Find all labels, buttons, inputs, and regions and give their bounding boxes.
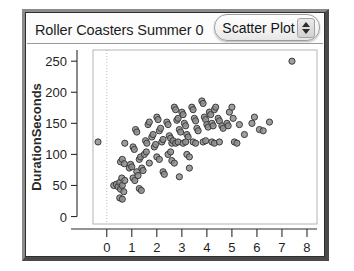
data-point[interactable]: [160, 136, 166, 142]
data-point[interactable]: [167, 149, 173, 155]
svg-text:100: 100: [45, 147, 67, 162]
data-point[interactable]: [171, 160, 177, 166]
data-point[interactable]: [143, 149, 149, 155]
triangle-up-icon[interactable]: [302, 22, 310, 27]
data-point[interactable]: [135, 172, 141, 178]
plot-type-dropdown[interactable]: Scatter Plot: [214, 14, 320, 41]
data-point[interactable]: [121, 189, 127, 195]
data-point[interactable]: [251, 114, 257, 120]
plot-type-stepper[interactable]: [297, 18, 315, 38]
svg-text:0: 0: [103, 240, 110, 255]
plot-type-value: Scatter Plot: [222, 19, 295, 37]
data-point[interactable]: [150, 131, 156, 137]
data-point[interactable]: [172, 107, 178, 113]
data-point[interactable]: [289, 58, 295, 64]
chart-window-inner: Roller Coasters Summer 0 Scatter Plot 05…: [25, 12, 325, 257]
svg-text:2: 2: [153, 240, 160, 255]
data-point[interactable]: [213, 104, 219, 110]
data-point[interactable]: [229, 104, 235, 110]
svg-text:150: 150: [45, 116, 67, 131]
data-point[interactable]: [249, 120, 255, 126]
svg-text:6: 6: [253, 240, 260, 255]
svg-text:4: 4: [203, 240, 210, 255]
data-point[interactable]: [193, 118, 199, 124]
data-point[interactable]: [230, 115, 236, 121]
data-point[interactable]: [260, 128, 266, 134]
data-point[interactable]: [234, 140, 240, 146]
data-point[interactable]: [216, 139, 222, 145]
data-point[interactable]: [195, 128, 201, 134]
data-point[interactable]: [225, 123, 231, 129]
data-point[interactable]: [186, 154, 192, 160]
data-point[interactable]: [122, 177, 128, 183]
data-point[interactable]: [180, 112, 186, 118]
data-point[interactable]: [155, 117, 161, 123]
data-point[interactable]: [140, 167, 146, 173]
data-point[interactable]: [210, 123, 216, 129]
scatter-plot-svg[interactable]: 050100150200250 012345678 DurationSecond…: [27, 44, 326, 260]
svg-text:7: 7: [278, 240, 285, 255]
data-point[interactable]: [156, 156, 162, 162]
data-point[interactable]: [131, 146, 137, 152]
data-point[interactable]: [193, 140, 199, 146]
data-point[interactable]: [157, 125, 163, 131]
data-point[interactable]: [236, 121, 242, 127]
data-point[interactable]: [95, 139, 101, 145]
data-point[interactable]: [200, 100, 206, 106]
svg-text:5: 5: [228, 240, 235, 255]
y-axis-title: DurationSeconds: [29, 83, 44, 191]
data-point[interactable]: [138, 187, 144, 193]
x-axis-ticks: 012345678: [103, 229, 310, 255]
data-point[interactable]: [146, 119, 152, 125]
data-point[interactable]: [183, 123, 189, 129]
triangle-down-icon[interactable]: [302, 29, 310, 34]
data-point[interactable]: [165, 121, 171, 127]
data-point[interactable]: [183, 139, 189, 145]
data-point[interactable]: [146, 160, 152, 166]
svg-text:0: 0: [60, 210, 67, 225]
data-point[interactable]: [122, 140, 128, 146]
data-point[interactable]: [203, 138, 209, 144]
data-point[interactable]: [152, 141, 158, 147]
data-point[interactable]: [144, 140, 150, 146]
svg-text:200: 200: [45, 85, 67, 100]
svg-text:250: 250: [45, 54, 67, 69]
scatter-plot-area[interactable]: 050100150200250 012345678 DurationSecond…: [27, 44, 323, 255]
svg-text:8: 8: [303, 240, 310, 255]
data-point[interactable]: [161, 171, 167, 177]
data-point[interactable]: [266, 119, 272, 125]
data-point[interactable]: [186, 165, 192, 171]
data-point[interactable]: [176, 174, 182, 180]
data-point[interactable]: [190, 107, 196, 113]
data-point[interactable]: [241, 131, 247, 137]
data-point[interactable]: [178, 129, 184, 135]
data-point[interactable]: [134, 129, 140, 135]
data-point[interactable]: [119, 196, 125, 202]
svg-text:50: 50: [53, 178, 67, 193]
plot-frame: [93, 50, 317, 224]
svg-text:3: 3: [178, 240, 185, 255]
y-axis-ticks: 050100150200250: [45, 54, 77, 224]
svg-text:1: 1: [128, 240, 135, 255]
chart-window: Roller Coasters Summer 0 Scatter Plot 05…: [22, 9, 329, 261]
data-point[interactable]: [129, 164, 135, 170]
